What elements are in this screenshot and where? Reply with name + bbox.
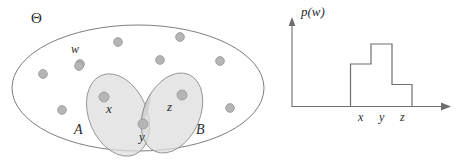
universe-label: Θ <box>31 11 42 26</box>
y-axis-label: p(w) <box>301 5 325 18</box>
y-axis <box>289 17 296 107</box>
x-tick-label-y: y <box>379 111 384 123</box>
point-z-label: z <box>167 100 172 113</box>
histogram-panel <box>280 0 469 167</box>
x-tick-label-z: z <box>400 111 405 123</box>
set-a-label: A <box>74 123 83 137</box>
histogram-step-outline <box>351 44 413 107</box>
y-axis-arrow-icon <box>289 17 296 26</box>
sample-point <box>216 57 225 66</box>
point-y-marker <box>138 119 148 129</box>
point-z-marker <box>177 90 187 100</box>
x-axis-arrow-icon <box>441 103 451 111</box>
point-x-label: x <box>106 102 112 115</box>
point-w-label: w <box>71 43 79 55</box>
x-tick-label-x: x <box>358 111 363 123</box>
figure-canvas: Θ w x z y A B p(w) x y z <box>0 0 469 167</box>
point-w-marker <box>75 62 84 71</box>
sample-point <box>114 38 123 47</box>
sample-point <box>226 104 235 113</box>
set-b-label: B <box>196 123 205 137</box>
x-axis <box>292 103 451 111</box>
point-y-label: y <box>139 130 145 143</box>
sample-point <box>176 33 185 42</box>
sample-point <box>39 70 48 79</box>
sample-point <box>58 106 67 115</box>
sample-point <box>156 56 165 65</box>
